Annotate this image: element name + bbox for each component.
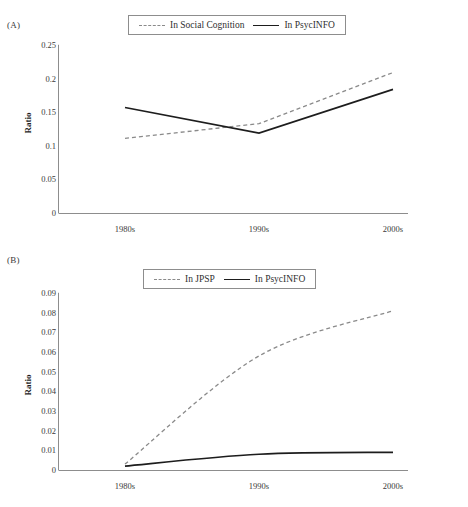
series-line-jpsp [125,311,393,464]
y-tick-label: 0.01 [22,445,56,455]
y-tick-label: 0.1 [22,141,56,151]
y-tick-label: 0.15 [22,107,56,117]
series-line-psycinfo [125,89,393,133]
panel-a-plot-area [58,0,466,230]
series-line-social-cognition [125,73,393,139]
y-tick-label: 0.04 [22,386,56,396]
series-line-psycinfo [125,452,393,466]
panel-b-label: (B) [7,255,20,265]
panel-a-label: (A) [7,20,20,30]
y-tick-label: 0.08 [22,308,56,318]
x-tick-label: 1990s [249,224,269,234]
y-tick-label: 0.03 [22,406,56,416]
panel-b: (B) In JPSP In PsycINFO Ratio 0.09 0.08 … [0,250,468,507]
y-tick-label: 0.02 [22,426,56,436]
x-tick-label: 2000s [383,481,403,491]
panel-b-plot-area [58,250,466,490]
figure-container: (A) In Social Cognition In PsycINFO Rati… [0,0,468,507]
y-tick-label: 0 [22,208,56,218]
y-tick-label: 0.06 [22,347,56,357]
x-tick-label: 1980s [115,481,135,491]
x-tick-label: 1980s [115,224,135,234]
y-tick-label: 0.25 [22,40,56,50]
panel-a: (A) In Social Cognition In PsycINFO Rati… [0,0,468,250]
y-tick-label: 0.07 [22,327,56,337]
y-tick-label: 0.05 [22,367,56,377]
y-tick-label: 0.05 [22,174,56,184]
y-tick-label: 0.09 [22,288,56,298]
y-tick-label: 0.2 [22,74,56,84]
x-tick-label: 2000s [383,224,403,234]
x-tick-label: 1990s [249,481,269,491]
y-tick-label: 0 [22,465,56,475]
